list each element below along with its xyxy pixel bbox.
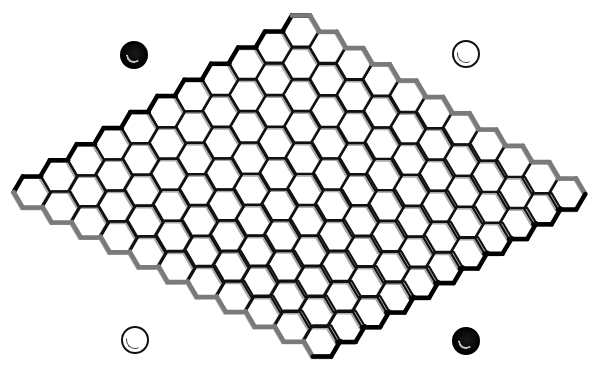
white-stone-bottom-left (121, 326, 149, 354)
white-stone-top-right (452, 40, 480, 68)
stone-highlight-icon (125, 46, 144, 65)
black-stone-bottom-right (452, 327, 480, 355)
stone-highlight-icon (457, 332, 476, 351)
black-stone-top-left (120, 41, 148, 69)
hex-game-board-area (0, 0, 597, 385)
board-cells[interactable] (14, 15, 586, 356)
stone-highlight-icon (457, 45, 475, 63)
stone-highlight-icon (126, 331, 144, 349)
hex-board[interactable] (0, 0, 597, 385)
